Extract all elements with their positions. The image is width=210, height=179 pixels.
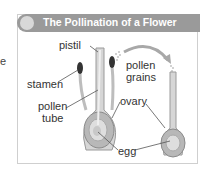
- stamen-left-filament: [80, 72, 86, 110]
- label-egg: egg: [118, 146, 136, 157]
- transfer-arrow: [124, 47, 168, 60]
- egg-main: [93, 126, 101, 136]
- label-pistil: pistil: [59, 40, 81, 51]
- label-pollen-grains-1: pollen: [126, 60, 155, 71]
- stamen-left-anther: [77, 62, 83, 74]
- ovary-leader: [146, 104, 165, 128]
- label-stamen: stamen: [27, 79, 63, 90]
- label-ovary: ovary: [120, 96, 147, 107]
- ovule-right: [166, 135, 180, 151]
- stamen-right-filament: [112, 66, 113, 110]
- stamen-right-anther: [109, 56, 115, 68]
- label-pollen-tube-2: tube: [42, 113, 63, 124]
- label-pollen-grains-2: grains: [126, 72, 156, 83]
- label-pollen-tube-1: pollen: [38, 101, 67, 112]
